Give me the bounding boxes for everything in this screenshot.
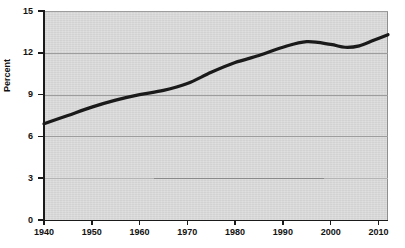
x-tick-label-1940: 1940	[24, 228, 64, 237]
x-tick-1990	[282, 220, 284, 225]
x-tick-1980	[234, 220, 236, 225]
plot-texture-overlay	[44, 11, 388, 220]
y-axis-title: Percent	[2, 59, 12, 92]
x-tick-1960	[139, 220, 141, 225]
y-tick-3	[38, 177, 44, 179]
y-tick-label-6: 6	[3, 132, 33, 141]
gridline-15	[44, 11, 388, 12]
y-tick-label-3: 3	[3, 174, 33, 183]
y-tick-9	[38, 94, 44, 96]
x-tick-label-1990: 1990	[263, 228, 303, 237]
x-tick-1950	[91, 220, 93, 225]
y-tick-label-15: 15	[3, 7, 33, 16]
gridline-6	[44, 136, 388, 137]
x-tick-1940	[43, 220, 45, 225]
y-axis-line	[43, 10, 45, 221]
x-tick-2010	[378, 220, 380, 225]
gridline-scan-artifact	[154, 178, 324, 179]
x-tick-label-1950: 1950	[72, 228, 112, 237]
x-tick-2000	[330, 220, 332, 225]
y-tick-label-0: 0	[3, 216, 33, 225]
x-axis-line	[43, 220, 388, 222]
y-tick-label-12: 12	[3, 48, 33, 57]
y-tick-12	[38, 52, 44, 54]
x-tick-label-1960: 1960	[120, 228, 160, 237]
plot-border-right	[387, 11, 388, 220]
plot-area	[44, 11, 388, 220]
x-tick-1970	[187, 220, 189, 225]
y-tick-15	[38, 10, 44, 12]
x-tick-label-1970: 1970	[167, 228, 207, 237]
gridline-9	[44, 95, 388, 96]
x-tick-label-2010: 2010	[358, 228, 398, 237]
x-tick-label-1980: 1980	[215, 228, 255, 237]
gridline-12	[44, 53, 388, 54]
y-tick-6	[38, 136, 44, 138]
x-tick-label-2000: 2000	[311, 228, 351, 237]
chart-figure: 03691215 1940195019601970198019902000201…	[0, 0, 405, 248]
